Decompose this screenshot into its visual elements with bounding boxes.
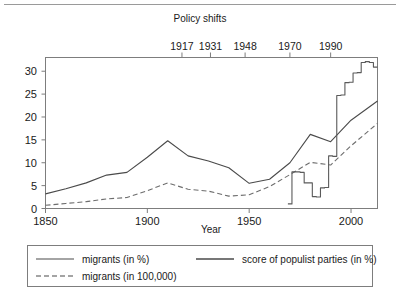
y-tick-label-5: 5 [31,180,37,192]
policy-shift-label-1931: 1931 [199,40,223,52]
x-axis-tick-labels: 1850190019502000 [33,215,363,227]
y-tick-label-10: 10 [25,157,37,169]
figure: Policy shifts 19171931194819701990 05101… [0,0,400,305]
x-axis-title: Year [201,224,222,235]
y-tick-label-25: 25 [25,88,37,100]
y-tick-label-30: 30 [25,65,37,77]
y-axis: 051015202530 [25,65,46,214]
series-line-0 [46,101,378,194]
x-axis: 1850190019502000 Year [33,209,363,236]
policy-shifts-tick-labels: 19171931194819701990 [170,40,342,52]
x-tick-label-1900: 1900 [135,215,159,227]
policy-shifts-title: Policy shifts [174,13,227,24]
data-series-group [46,62,378,206]
plot-area-frame [46,58,378,209]
y-axis-tick-marks [42,71,46,208]
y-tick-label-20: 20 [25,111,37,123]
legend-label-2: migrants (in 100,000) [82,271,177,282]
legend-border [28,246,373,287]
legend-items: migrants (in %)score of populist parties… [36,254,377,282]
legend-label-0: migrants (in %) [82,254,149,265]
x-tick-label-1850: 1850 [33,215,57,227]
x-axis-tick-marks [46,209,352,214]
policy-shifts-tick-marks [182,53,331,58]
top-divider-rule [4,4,396,5]
policy-shifts-axis: Policy shifts 19171931194819701990 [170,13,342,58]
series-line-2 [288,62,378,204]
chart-canvas: Policy shifts 19171931194819701990 05101… [0,0,400,305]
policy-shift-label-1948: 1948 [233,40,257,52]
policy-shift-label-1990: 1990 [319,40,343,52]
y-tick-label-0: 0 [31,203,37,215]
legend: migrants (in %)score of populist parties… [28,246,377,287]
x-tick-label-1950: 1950 [237,215,261,227]
y-axis-tick-labels: 051015202530 [25,65,37,214]
policy-shift-label-1917: 1917 [170,40,194,52]
series-line-1 [46,123,378,205]
x-tick-label-2000: 2000 [339,215,363,227]
y-tick-label-15: 15 [25,134,37,146]
legend-label-1: score of populist parties (in %) [242,254,377,265]
policy-shift-label-1970: 1970 [278,40,302,52]
